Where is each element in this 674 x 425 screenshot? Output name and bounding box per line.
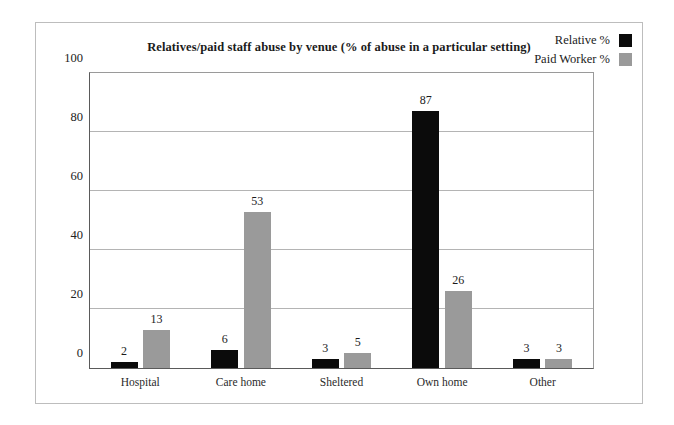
bar[interactable]: 3	[312, 359, 339, 368]
bar-group: 653Care home	[191, 73, 292, 368]
bar[interactable]: 5	[344, 353, 371, 368]
bar-group: 35Sheltered	[291, 73, 392, 368]
bar-group: 8726Own home	[392, 73, 493, 368]
bar-value-label: 3	[556, 341, 562, 356]
y-axis-tick-label: 40	[71, 228, 84, 243]
bar-value-label: 87	[420, 93, 432, 108]
y-axis-tick-label: 80	[71, 110, 84, 125]
bar[interactable]: 2	[111, 362, 138, 368]
bar-group: 213Hospital	[90, 73, 191, 368]
bar[interactable]: 6	[211, 350, 238, 368]
bar-value-label: 3	[322, 341, 328, 356]
bars-layer: 213Hospital653Care home35Sheltered8726Ow…	[90, 73, 593, 368]
bar-value-label: 3	[523, 341, 529, 356]
y-axis-tick-label: 0	[77, 346, 83, 361]
y-axis-tick-label: 20	[71, 287, 84, 302]
bar-value-label: 2	[121, 344, 127, 359]
bar-value-label: 5	[355, 335, 361, 350]
legend-label: Paid Worker %	[534, 52, 610, 67]
bar[interactable]: 53	[244, 212, 271, 368]
y-axis-tick-label: 60	[71, 169, 84, 184]
legend-label: Relative %	[555, 33, 610, 48]
chart-legend: Relative %Paid Worker %	[534, 33, 632, 67]
legend-swatch	[619, 34, 632, 47]
legend-swatch	[619, 53, 632, 66]
bar[interactable]: 3	[545, 359, 572, 368]
plot-area: 020406080100 213Hospital653Care home35Sh…	[89, 72, 594, 369]
y-axis-tick-label: 100	[64, 51, 83, 66]
bar-group: 33Other	[492, 73, 593, 368]
x-axis-tick-label: Own home	[417, 376, 468, 388]
x-axis-tick-label: Sheltered	[320, 376, 363, 388]
bar[interactable]: 26	[445, 291, 472, 368]
bar-value-label: 13	[151, 312, 163, 327]
x-axis-tick-label: Other	[530, 376, 556, 388]
bar-value-label: 53	[251, 194, 263, 209]
legend-entry[interactable]: Paid Worker %	[534, 52, 632, 67]
bar[interactable]: 3	[513, 359, 540, 368]
chart-figure: Relatives/paid staff abuse by venue (% o…	[35, 22, 643, 404]
legend-entry[interactable]: Relative %	[555, 33, 632, 48]
bar-value-label: 6	[222, 332, 228, 347]
bar[interactable]: 13	[143, 330, 170, 368]
x-axis-tick-label: Hospital	[121, 376, 160, 388]
x-axis-tick-label: Care home	[216, 376, 266, 388]
bar[interactable]: 87	[412, 111, 439, 368]
bar-value-label: 26	[452, 273, 464, 288]
